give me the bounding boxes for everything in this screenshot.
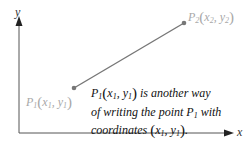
point-p1-label: P1(x1, y1) [26,95,72,110]
sym-p: P [186,105,193,119]
x-axis-label: x [237,126,242,138]
annotation-line-3: coordinates (x1, y1). [91,123,221,142]
point-p2-label: P2(x2, y2) [188,10,234,25]
annotation-line-2: of writing the point P1 with [91,105,221,124]
x-axis-arrow-icon [224,130,234,137]
annotation-line-2-end: with [198,105,222,119]
segment-p1-p2 [74,23,184,88]
annotation-line-1: P1(x1, y1) is another way [91,86,221,105]
annotation-line-2-text: of writing the point [91,105,186,119]
point-p2-dot [182,21,187,26]
paren-close: ) [229,9,234,25]
annotation-line-1-text: is another way [137,86,211,100]
period: . [185,123,188,137]
annotation-text: P1(x1, y1) is another way of writing the… [91,86,221,142]
annotation-line-3-text: coordinates [91,123,150,137]
paren-close: ) [67,94,72,110]
y-axis-label: y [15,6,20,18]
point-p1-dot [72,86,77,91]
